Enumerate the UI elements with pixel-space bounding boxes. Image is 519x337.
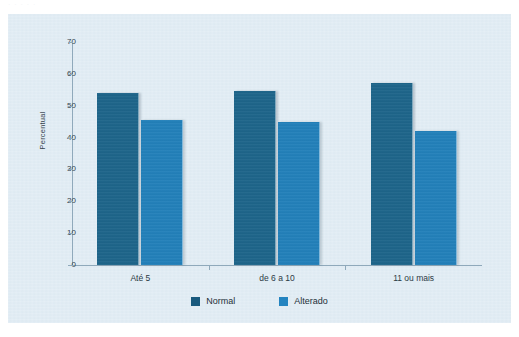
- chart-legend: NormalAlterado: [8, 296, 511, 306]
- bar-texture: [234, 91, 275, 265]
- chart-panel: Percentual 010203040506070 Até 5de 6 a 1…: [8, 14, 511, 323]
- bar-alterado-2: [278, 122, 320, 265]
- plot-area: Percentual 010203040506070 Até 5de 6 a 1…: [8, 14, 511, 323]
- x-axis-tick-label: Até 5: [80, 273, 200, 283]
- legend-swatch-icon: [191, 297, 200, 306]
- y-axis-tick-mark: [68, 265, 73, 266]
- y-axis-tick-mark: [68, 74, 73, 75]
- bar-texture: [415, 131, 456, 265]
- x-axis-divider-mark: [209, 265, 210, 270]
- x-axis-line: [72, 265, 482, 266]
- bar-texture: [97, 93, 138, 265]
- y-axis-tick-mark: [68, 233, 73, 234]
- x-axis-tick-label: de 6 a 10: [217, 273, 337, 283]
- legend-label: Alterado: [294, 296, 328, 306]
- bar-texture: [371, 83, 412, 265]
- legend-entry-alterado[interactable]: Alterado: [279, 296, 328, 306]
- page-top-text-fragment: · · · · ·: [8, 0, 208, 9]
- x-axis-tick-label: 11 ou mais: [354, 273, 474, 283]
- legend-swatch-icon: [279, 297, 288, 306]
- bar-texture: [141, 120, 182, 265]
- y-axis-tick-mark: [68, 201, 73, 202]
- bar-alterado-1: [141, 120, 183, 265]
- legend-entry-normal[interactable]: Normal: [191, 296, 235, 306]
- y-axis-tick-mark: [68, 106, 73, 107]
- bar-normal-1: [97, 93, 139, 265]
- bar-texture: [278, 122, 319, 265]
- y-axis-tick-mark: [68, 169, 73, 170]
- bar-alterado-3: [415, 131, 457, 265]
- y-axis-tick-mark: [68, 138, 73, 139]
- y-axis-tick-mark: [68, 42, 73, 43]
- legend-label: Normal: [206, 296, 235, 306]
- bar-normal-3: [371, 83, 413, 265]
- bar-normal-2: [234, 91, 276, 265]
- x-axis-divider-mark: [345, 265, 346, 270]
